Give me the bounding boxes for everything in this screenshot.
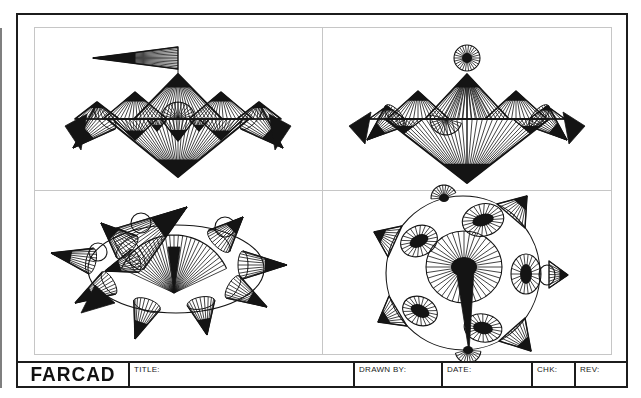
drawing-mountain-sun: [323, 28, 611, 191]
title-cell: TITLE:: [128, 363, 353, 386]
drawing-mountain-pennant: [35, 28, 323, 191]
scan-edge-shadow: [0, 28, 2, 388]
date-label: DATE:: [443, 363, 531, 374]
drawing-frame: [34, 27, 612, 355]
rev-cell: REV:: [574, 363, 626, 386]
drawing-sheet: FARCAD TITLE: DRAWN BY: DATE: CHK: REV:: [16, 13, 628, 388]
title-label: TITLE:: [130, 363, 353, 374]
farcad-logo: FARCAD: [30, 363, 115, 386]
drawn-by-label: DRAWN BY:: [355, 363, 441, 374]
logo-cell: FARCAD: [18, 363, 128, 386]
chk-label: CHK:: [533, 363, 574, 374]
date-cell: DATE:: [441, 363, 531, 386]
drawing-spiked-orb: [323, 191, 611, 354]
drawn-by-cell: DRAWN BY:: [353, 363, 441, 386]
title-block: FARCAD TITLE: DRAWN BY: DATE: CHK: REV:: [18, 361, 626, 386]
chk-cell: CHK:: [531, 363, 574, 386]
rev-label: REV:: [576, 363, 626, 374]
drawing-spiked-crown: [35, 191, 323, 354]
